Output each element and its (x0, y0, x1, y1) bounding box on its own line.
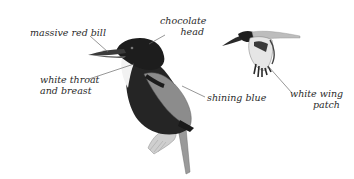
perched-kingfisher (88, 38, 194, 174)
leader-line-wing-patch (268, 66, 292, 93)
label-bill-text: massive red bill (30, 27, 106, 38)
label-head-line2: head (160, 26, 204, 37)
label-head-line1: chocolate (160, 15, 204, 26)
label-massive-red-bill: massive red bill (30, 27, 106, 38)
leader-line-bill (90, 36, 108, 52)
label-wing-line2: patch (290, 99, 340, 110)
leader-line-blue (182, 86, 205, 97)
kingfisher-illustration: massive red bill chocolate head white th… (0, 0, 354, 179)
label-throat-line2: and breast (40, 85, 99, 96)
label-white-throat: white throat and breast (40, 74, 99, 96)
label-throat-line1: white throat (40, 74, 99, 85)
label-shining-blue: shining blue (207, 92, 266, 103)
flying-kingfisher (222, 31, 300, 77)
label-wing-line1: white wing (290, 88, 340, 99)
label-chocolate-head: chocolate head (160, 15, 204, 37)
label-white-wing-patch: white wing patch (290, 88, 340, 110)
label-blue-text: shining blue (207, 92, 266, 103)
